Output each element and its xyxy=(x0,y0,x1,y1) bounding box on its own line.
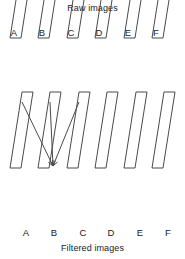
shape-label-top-d: D xyxy=(96,27,103,38)
image-parallelogram xyxy=(124,92,147,168)
arrow-from-c xyxy=(53,102,79,166)
bottom-row-shapes xyxy=(10,92,175,168)
shape-label-bottom-c: C xyxy=(80,227,87,238)
figure-container: Raw images ABCDEF ABCDEF Filtered images xyxy=(0,0,185,259)
bottom-row-caption: Filtered images xyxy=(0,243,185,253)
image-parallelogram xyxy=(38,92,61,168)
shape-label-top-c: C xyxy=(68,27,75,38)
shape-label-top-e: E xyxy=(125,27,131,38)
image-parallelogram xyxy=(95,92,118,168)
shape-label-top-b: B xyxy=(39,27,45,38)
image-parallelogram xyxy=(152,92,175,168)
shape-label-top-a: A xyxy=(11,27,18,38)
shape-label-bottom-b: B xyxy=(51,227,57,238)
shape-label-top-f: F xyxy=(153,27,159,38)
bottom-row-labels: ABCDEF xyxy=(23,227,171,238)
shape-label-bottom-a: A xyxy=(23,227,30,238)
shape-label-bottom-d: D xyxy=(108,227,115,238)
image-parallelogram xyxy=(10,92,33,168)
shape-label-bottom-e: E xyxy=(137,227,143,238)
shape-label-bottom-f: F xyxy=(165,227,171,238)
image-pipeline-diagram: ABCDEF ABCDEF xyxy=(0,0,185,259)
top-row-shapes xyxy=(10,0,175,38)
